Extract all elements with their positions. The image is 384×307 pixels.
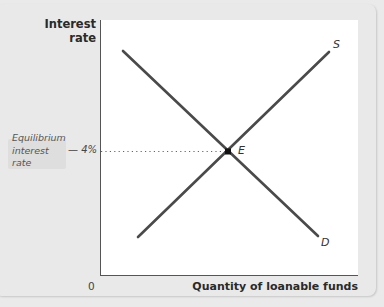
y-tick-4-percent: — 4% bbox=[68, 144, 97, 155]
supply-curve bbox=[138, 52, 329, 237]
equilibrium-label-line1: Equilibrium bbox=[12, 132, 74, 145]
demand-curve-label: D bbox=[321, 236, 329, 249]
equilibrium-label-line3: rate bbox=[12, 157, 74, 170]
equilibrium-point bbox=[225, 149, 231, 155]
origin-label: 0 bbox=[88, 280, 95, 292]
y-axis-label-line1: Interest bbox=[44, 17, 96, 31]
supply-curve-label: S bbox=[333, 38, 340, 51]
point-e-label: E bbox=[238, 144, 245, 157]
equilibrium-rate-label: Equilibrium interest rate bbox=[12, 132, 74, 170]
y-axis-label-line2: rate bbox=[44, 31, 96, 45]
equilibrium-label-line2: interest bbox=[12, 145, 74, 158]
y-axis-label: Interest rate bbox=[44, 17, 96, 45]
demand-curve bbox=[123, 51, 318, 236]
x-axis-label: Quantity of loanable funds bbox=[192, 280, 358, 293]
